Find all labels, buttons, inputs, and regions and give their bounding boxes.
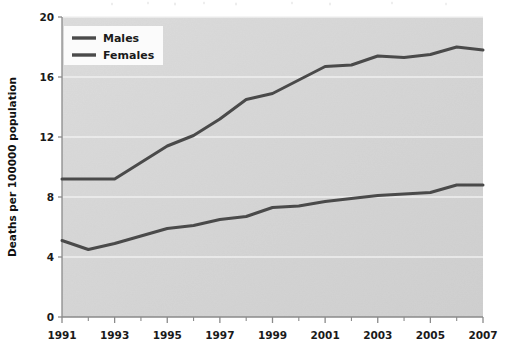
x-tick-label: 1995 [153,329,182,341]
y-tick-labels: 048121620 [39,11,54,323]
legend-label-males: Males [103,32,140,45]
x-tick-label: 2005 [416,329,445,341]
line-chart: 048121620 199119931995199719992001200320… [0,0,508,354]
x-tick-label: 2001 [311,329,340,341]
legend: Males Females [64,26,163,65]
x-tick-label: 1999 [258,329,287,341]
y-tick-label: 16 [39,71,54,83]
y-axis-title: Deaths per 100000 population [6,77,18,257]
x-tick-labels: 199119931995199719992001200320052007 [47,329,497,341]
y-tick-label: 0 [47,311,54,323]
x-tick-label: 1997 [205,329,234,341]
y-tick-label: 4 [47,251,54,263]
y-tick-label: 20 [39,11,54,23]
y-tick-label: 12 [39,131,54,143]
x-tick-label: 1991 [47,329,76,341]
x-tick-marks [62,317,483,323]
x-tick-label: 1993 [100,329,129,341]
y-tick-label: 8 [47,191,54,203]
legend-label-females: Females [103,49,155,62]
x-tick-label: 2003 [363,329,392,341]
x-tick-label: 2007 [468,329,497,341]
